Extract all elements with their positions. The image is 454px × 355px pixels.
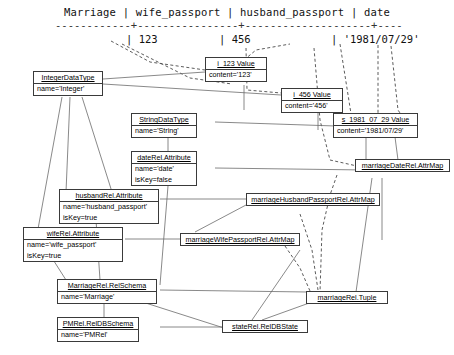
- object-slot: name='Marriage': [58, 292, 156, 303]
- object-title: PMRel.RelDBSchema: [58, 318, 138, 330]
- object-string-datatype[interactable]: StringDataType name='String': [131, 113, 197, 138]
- link-integer-to-husbandattr: [66, 97, 70, 192]
- object-marriagerel-tuple[interactable]: marriageRel.Tuple: [306, 291, 388, 304]
- object-slot: isKey=true: [60, 213, 158, 224]
- link-husbandmap-to-wifemap: [195, 205, 246, 232]
- relational-table-header: Marriage | wife_passport | husband_passp…: [0, 6, 454, 18]
- object-integer-datatype[interactable]: IntegerDataType name='Integer': [33, 71, 103, 96]
- link-husbandmap-to-tuple: [300, 214, 318, 290]
- object-slot: name='Integer': [34, 84, 102, 95]
- cell-husband-passport: | 456: [219, 33, 251, 45]
- link-state-to-wifemap: [252, 250, 300, 320]
- link-svalue-to-datemap-b: [395, 137, 398, 160]
- object-marriagehusbandpassportrel-attrmap[interactable]: marriageHusbandPassportRel.AttrMap: [246, 193, 380, 206]
- object-slot: content='123': [206, 70, 266, 81]
- link-dateattr-to-relschema: [160, 186, 168, 285]
- relational-table-separator: ------------+----------------+----------…: [55, 21, 403, 30]
- object-title: stateRel.RelDBState: [223, 321, 307, 332]
- object-title: s_1981_07_29 Value: [334, 114, 417, 126]
- object-staterel-reldbstate[interactable]: stateRel.RelDBState: [222, 320, 308, 333]
- object-title: husbandRel.Attribute: [60, 190, 158, 202]
- object-title: i_456 Value: [282, 89, 342, 101]
- link-integer-to-i456: [103, 84, 281, 95]
- object-title: StringDataType: [132, 114, 196, 126]
- object-slot: name='PMRel': [58, 330, 138, 341]
- link-date-cell-to-svalue: [340, 44, 366, 123]
- link-state-to-tuple: [262, 302, 312, 320]
- cell-wife-passport: | 123: [126, 33, 158, 45]
- object-pmrel-reldbschema[interactable]: PMRel.RelDBSchema name='PMRel': [57, 317, 139, 342]
- object-s-1981-07-29-value[interactable]: s_1981_07_29 Value content='1981/07/29': [333, 113, 418, 138]
- object-slot: isKey=true: [24, 251, 122, 262]
- object-title: marriageDateRel.AttrMap: [356, 160, 449, 171]
- object-title: IntegerDataType: [34, 72, 102, 84]
- link-relschema-to-tuple: [160, 290, 308, 292]
- object-marriagedaterel-attrmap[interactable]: marriageDateRel.AttrMap: [355, 159, 450, 172]
- object-i-123-value[interactable]: i_123 Value content='123': [205, 57, 267, 82]
- link-wife-cell-to-i123: [111, 41, 205, 70]
- object-title: i_123 Value: [206, 58, 266, 70]
- link-integer-to-i123: [103, 72, 205, 79]
- link-date-cell-to-svalue-c: [391, 46, 402, 116]
- object-title: dateRel.Attribute: [132, 152, 196, 164]
- object-wiferel-attribute[interactable]: wifeRel.Attribute name='wife_passport' i…: [23, 227, 123, 262]
- object-title: marriageWifePassportRel.AttrMap: [181, 234, 299, 245]
- object-title: marriageRel.Tuple: [307, 292, 387, 303]
- cell-date: | '1981/07/29': [331, 33, 420, 45]
- object-slot: name='String': [132, 126, 196, 137]
- object-husbandrel-attribute[interactable]: husbandRel.Attribute name='husband_passp…: [59, 189, 159, 224]
- link-dateattr-to-datemap: [215, 168, 366, 170]
- object-daterel-attribute[interactable]: dateRel.Attribute name='date' isKey=fals…: [131, 151, 197, 186]
- object-slot: name='husband_passport': [60, 202, 158, 213]
- object-title: marriageHusbandPassportRel.AttrMap: [247, 194, 379, 205]
- diagram-canvas: Marriage | wife_passport | husband_passp…: [0, 0, 454, 355]
- object-marriagerel-relschema[interactable]: MarriageRel.RelSchema name='Marriage': [57, 279, 157, 304]
- object-marriagewifepassportrel-attrmap[interactable]: marriageWifePassportRel.AttrMap: [180, 233, 300, 246]
- object-slot: isKey=false: [132, 175, 196, 186]
- object-slot: name='wife_passport': [24, 240, 122, 251]
- object-title: wifeRel.Attribute: [24, 228, 122, 240]
- link-wifemap-to-tuple: [285, 246, 310, 291]
- object-i-456-value[interactable]: i_456 Value content='456': [281, 88, 343, 113]
- object-slot: content='1981/07/29': [334, 126, 417, 137]
- object-slot: content='456': [282, 101, 342, 112]
- link-integer-to-husbandattr-b: [82, 97, 112, 192]
- object-title: MarriageRel.RelSchema: [58, 280, 156, 292]
- object-slot: name='date': [132, 164, 196, 175]
